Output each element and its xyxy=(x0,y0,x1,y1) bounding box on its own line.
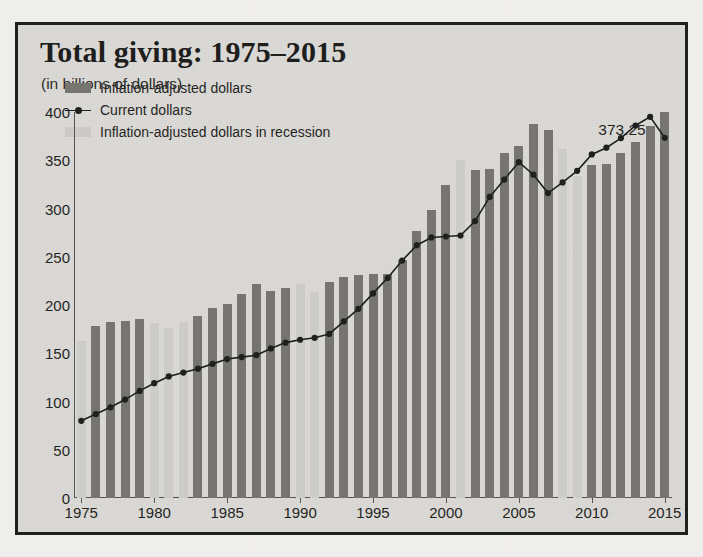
data-point-2015 xyxy=(662,135,668,141)
data-point-1988 xyxy=(268,345,274,351)
data-point-2000 xyxy=(443,233,449,239)
x-tick-mark-1975 xyxy=(81,498,82,503)
x-tick-mark-1990 xyxy=(300,498,301,503)
page-title: Total giving: 1975–2015 xyxy=(40,35,346,69)
x-tick-mark-2010 xyxy=(592,498,593,503)
data-point-2007 xyxy=(545,190,551,196)
x-tick-1995: 1995 xyxy=(356,504,389,521)
y-tick-350: 350 xyxy=(24,152,70,169)
data-point-2003 xyxy=(487,194,493,200)
data-point-2012 xyxy=(618,135,624,141)
y-tick-300: 300 xyxy=(24,200,70,217)
x-tick-2010: 2010 xyxy=(575,504,608,521)
data-point-1999 xyxy=(428,234,434,240)
data-point-2014 xyxy=(647,114,653,120)
data-point-2010 xyxy=(589,151,595,157)
data-point-1986 xyxy=(239,354,245,360)
plot-area: 050100150200250300350400 197519801985199… xyxy=(74,112,672,498)
data-point-2011 xyxy=(603,145,609,151)
x-tick-mark-1980 xyxy=(154,498,155,503)
x-tick-1975: 1975 xyxy=(65,504,98,521)
data-point-2005 xyxy=(516,159,522,165)
data-point-1982 xyxy=(180,369,186,375)
data-point-1995 xyxy=(370,290,376,296)
y-tick-50: 50 xyxy=(24,441,70,458)
legend-label: Inflation-adjusted dollars xyxy=(100,80,252,96)
data-point-2004 xyxy=(501,176,507,182)
data-point-1979 xyxy=(137,388,143,394)
x-tick-mark-2005 xyxy=(519,498,520,503)
data-point-1981 xyxy=(166,373,172,379)
data-point-1989 xyxy=(282,340,288,346)
data-point-1980 xyxy=(151,380,157,386)
y-tick-200: 200 xyxy=(24,297,70,314)
data-point-1993 xyxy=(341,318,347,324)
data-point-1984 xyxy=(209,361,215,367)
y-tick-400: 400 xyxy=(24,104,70,121)
data-point-2006 xyxy=(530,172,536,178)
data-point-2002 xyxy=(472,218,478,224)
data-point-2013 xyxy=(632,122,638,128)
data-point-2001 xyxy=(457,232,463,238)
data-point-1987 xyxy=(253,352,259,358)
x-tick-1990: 1990 xyxy=(283,504,316,521)
data-point-1975 xyxy=(78,418,84,424)
data-point-1991 xyxy=(312,335,318,341)
x-tick-2015: 2015 xyxy=(648,504,681,521)
x-tick-mark-2015 xyxy=(665,498,666,503)
data-point-1994 xyxy=(355,306,361,312)
y-tick-100: 100 xyxy=(24,393,70,410)
data-point-1990 xyxy=(297,337,303,343)
x-tick-mark-2000 xyxy=(446,498,447,503)
bar-swatch-dark-icon xyxy=(65,83,91,93)
data-point-1992 xyxy=(326,331,332,337)
x-tick-2000: 2000 xyxy=(429,504,462,521)
y-tick-0: 0 xyxy=(24,490,70,507)
data-point-1978 xyxy=(122,396,128,402)
line-series-current-dollars xyxy=(74,112,672,498)
x-tick-mark-1995 xyxy=(373,498,374,503)
data-point-1976 xyxy=(93,411,99,417)
chart-page: Total giving: 1975–2015 (in billions of … xyxy=(0,0,703,557)
legend-item-inflation-adjusted: Inflation-adjusted dollars xyxy=(65,77,330,99)
y-tick-250: 250 xyxy=(24,248,70,265)
data-point-1983 xyxy=(195,366,201,372)
chart-frame: Total giving: 1975–2015 (in billions of … xyxy=(15,22,688,535)
x-tick-mark-1985 xyxy=(227,498,228,503)
data-point-1977 xyxy=(107,404,113,410)
x-tick-2005: 2005 xyxy=(502,504,535,521)
x-tick-1980: 1980 xyxy=(138,504,171,521)
data-point-2008 xyxy=(560,179,566,185)
data-point-1997 xyxy=(399,258,405,264)
data-point-1996 xyxy=(384,275,390,281)
data-point-1985 xyxy=(224,356,230,362)
x-tick-1985: 1985 xyxy=(210,504,243,521)
data-point-1998 xyxy=(414,242,420,248)
data-point-2009 xyxy=(574,168,580,174)
y-tick-150: 150 xyxy=(24,345,70,362)
